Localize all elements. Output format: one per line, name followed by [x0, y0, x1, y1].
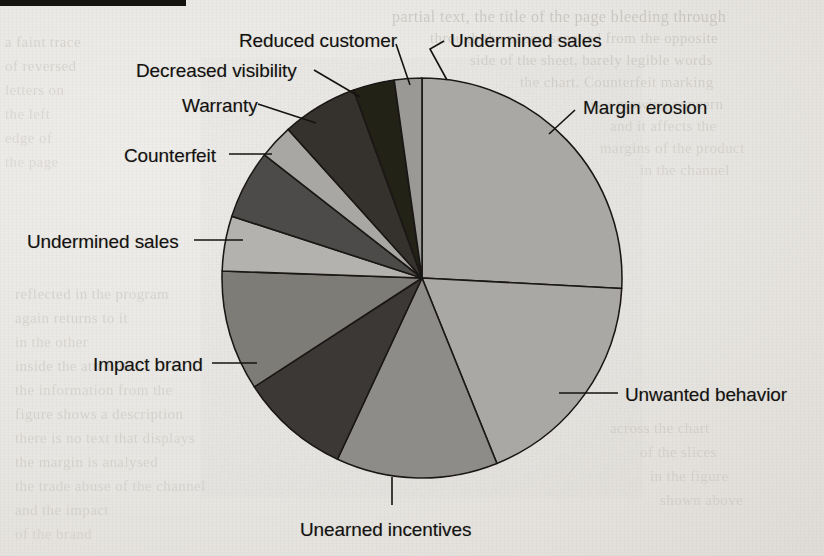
callout-leader-decreased-visibility [314, 70, 360, 97]
callout-label-decreased-visibility: Decreased visibility [136, 60, 297, 82]
callout-label-reduced-customer: Reduced customer [239, 30, 397, 52]
callout-label-unwanted-behavior: Unwanted behavior [625, 384, 787, 406]
pie-chart-svg [0, 0, 824, 556]
callout-leader-undermined-sales-top [430, 41, 447, 80]
callout-label-undermined-sales-top: Undermined sales [450, 30, 602, 52]
pie-slices-group [222, 78, 622, 478]
callout-label-impact-brand: Impact brand [93, 354, 203, 376]
callout-label-undermined-sales-left: Undermined sales [27, 231, 179, 253]
callout-leader-margin-erosion [549, 110, 575, 134]
callout-label-unearned-incentives: Unearned incentives [300, 519, 471, 541]
callout-label-warranty: Warranty [182, 95, 258, 117]
callout-label-margin-erosion: Margin erosion [583, 97, 707, 119]
pie-chart-figure: Margin erosionUnwanted behaviorUnearned … [0, 0, 824, 556]
callout-label-counterfeit: Counterfeit [124, 145, 216, 167]
